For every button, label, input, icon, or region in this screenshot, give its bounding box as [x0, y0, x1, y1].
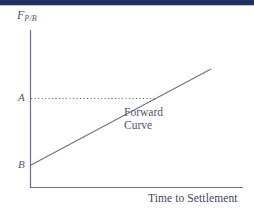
- forward-curve-annotation-line2: Curve: [124, 119, 163, 132]
- forward-curve-annotation: Forward Curve: [124, 106, 163, 132]
- y-axis-label: FP/B: [17, 9, 37, 24]
- y-axis-subscript: P/B: [24, 14, 37, 23]
- forward-curve-line: [31, 69, 211, 165]
- x-axis-label: Time to Settlement: [148, 192, 238, 205]
- y-tick-label-a: A: [18, 91, 25, 103]
- y-tick-label-b: B: [18, 158, 25, 170]
- forward-curve-annotation-line1: Forward: [124, 106, 163, 119]
- forward-curve-figure: FP/B A B Forward Curve Time to Settlemen…: [0, 0, 254, 208]
- plot-canvas: [0, 0, 254, 208]
